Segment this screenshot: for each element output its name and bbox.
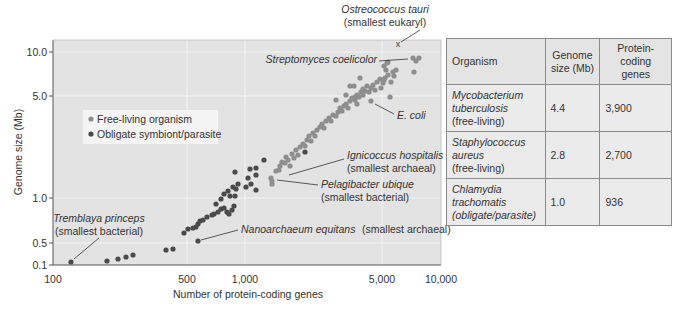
annotation-ostreococcus-sub: (smallest eukaryl): [344, 16, 426, 28]
cell-organism: Mycobacterium tuberculosis (free-living): [447, 85, 546, 132]
annotation-tremblaya: Tremblaya princeps: [53, 212, 145, 224]
annotation-nanoarchaeum: Nanoarchaeum equitans: [241, 223, 356, 235]
legend-free-living-label: Free-living organism: [97, 113, 192, 125]
eukaryote-x-marker: x: [396, 39, 401, 49]
y-tick-1: 1.0: [32, 192, 47, 204]
x-tick-10000: 10,000: [425, 273, 457, 285]
annotation-pelagibacter: Pelagibacter ubique: [321, 178, 414, 190]
header-genome-size: Genome size (Mb): [545, 39, 600, 85]
x-tick-1000: 1,000: [232, 273, 258, 285]
annotation-streptomyces: Streptomyces coelicolor: [266, 53, 378, 65]
y-tick-0-1: 0.1: [32, 259, 47, 271]
x-tick-100: 100: [44, 273, 62, 285]
legend-obligate-label: Obligate symbiont/parasite: [97, 128, 221, 140]
table-row: Chlamydia trachomatis (obligate/parasite…: [447, 179, 672, 226]
genome-size-figure: 10.0 5.0 1.0 0.5 0.1 100 500 1,000 5,000…: [0, 0, 677, 313]
x-tick-5000: 5,000: [369, 273, 395, 285]
header-protein-genes: Protein-coding genes: [600, 39, 672, 85]
genome-table-container: Organism Genome size (Mb) Protein-coding…: [446, 38, 672, 226]
cell-organism: Staphylococcus aureus (free-living): [447, 132, 546, 179]
y-tick-0-5: 0.5: [32, 237, 47, 249]
x-axis-label: Number of protein-coding genes: [173, 288, 323, 300]
cell-genome-size: 2.8: [545, 132, 600, 179]
legend-obligate-marker: [88, 131, 93, 136]
genome-table: Organism Genome size (Mb) Protein-coding…: [446, 38, 672, 226]
header-organism: Organism: [447, 39, 546, 85]
legend-free-living-marker: [88, 116, 93, 121]
x-tick-500: 500: [178, 273, 196, 285]
cell-organism: Chlamydia trachomatis (obligate/parasite…: [447, 179, 546, 226]
annotation-ecoli: E. coli: [397, 109, 426, 121]
cell-genome-size: 4.4: [545, 85, 600, 132]
annotation-pelagibacter-sub: (smallest bacterial): [321, 191, 409, 203]
table-row: Mycobacterium tuberculosis (free-living)…: [447, 85, 672, 132]
y-tick-10: 10.0: [27, 46, 48, 58]
y-axis-label: Genome size (Mb): [12, 109, 24, 195]
annotation-ignicoccus-sub: (smallest archaeal): [347, 162, 436, 174]
legend: Free-living organism Obligate symbiont/p…: [83, 110, 221, 144]
y-tick-5: 5.0: [32, 90, 47, 102]
cell-protein-genes: 3,900: [600, 85, 672, 132]
table-header-row: Organism Genome size (Mb) Protein-coding…: [447, 39, 672, 85]
table-row: Staphylococcus aureus (free-living) 2.8 …: [447, 132, 672, 179]
annotation-nanoarchaeum-sub: (smallest archaeal): [362, 223, 451, 235]
annotation-ostreococcus: Ostreococcus tauri: [341, 3, 429, 15]
cell-protein-genes: 936: [600, 179, 672, 226]
cell-genome-size: 1.0: [545, 179, 600, 226]
annotation-tremblaya-sub: (smallest bacterial): [55, 225, 143, 237]
annotation-ignicoccus: Ignicoccus hospitalis: [347, 149, 444, 161]
cell-protein-genes: 2,700: [600, 132, 672, 179]
